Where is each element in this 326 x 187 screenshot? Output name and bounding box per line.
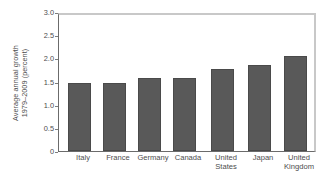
y-tick-label-0-5: 0.5 [30,125,54,133]
bars-container [59,15,314,151]
bar-chart-figure: Average annual growth 1979–2009 (percent… [0,0,326,187]
source-caption [18,180,318,187]
y-tick-label-2-0: 2.0 [30,55,54,63]
x-label-united-kingdom: United Kingdom [270,154,326,172]
y-tick-mark-0 [55,152,58,153]
y-axis-title: Average annual growth 1979–2009 (percent… [10,12,32,154]
y-tick-label-1-5: 1.5 [30,79,54,87]
y-axis-tick-labels: 3.0 2.5 2.0 1.5 1.0 0.5 0 [30,0,54,187]
bar-japan [248,65,271,151]
plot-area [58,13,316,152]
y-tick-label-1-0: 1.0 [30,102,54,110]
bar-canada [173,78,196,151]
x-label-united-states-line-2: States [197,163,255,172]
y-tick-label-2-5: 2.5 [30,32,54,40]
y-axis-title-text: Average annual growth 1979–2009 (percent… [12,45,29,121]
x-label-united-kingdom-line-2: Kingdom [270,163,326,172]
bar-germany [138,78,161,151]
y-tick-label-0: 0 [30,148,54,156]
bar-italy [68,83,91,151]
y-axis-title-line-2: 1979–2009 (percent) [21,45,30,121]
x-axis-tick-labels: Italy France Germany Canada United State… [58,154,316,176]
y-tick-label-3-0: 3.0 [30,9,54,17]
bar-united-states [211,69,234,151]
bar-united-kingdom [284,56,307,151]
bar-france [103,83,126,151]
